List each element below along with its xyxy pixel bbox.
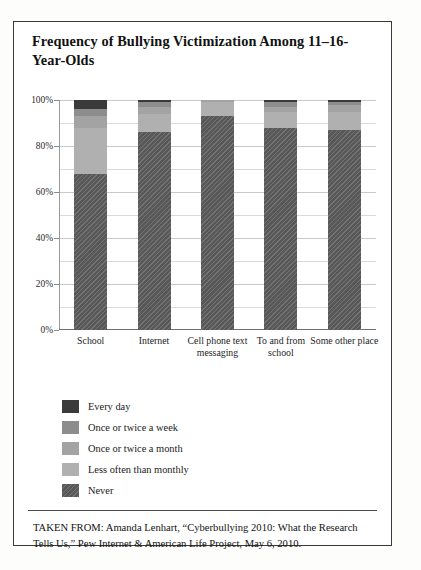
x-axis-label: To and from school: [244, 335, 317, 359]
bar-2[interactable]: Internet: [138, 100, 171, 330]
bar-3[interactable]: Cell phone text messaging: [201, 100, 234, 330]
legend-swatch: [62, 484, 79, 497]
figure-page: Frequency of Bullying Victimization Amon…: [0, 0, 421, 570]
legend-label: Once or twice a week: [88, 422, 178, 433]
legend-swatch: [62, 421, 79, 434]
y-axis-tick-label: 0%: [41, 325, 54, 335]
bar-segment: [264, 112, 297, 128]
bar-segment: [74, 116, 107, 128]
y-axis-tick-label: 100%: [31, 95, 53, 105]
bar-5[interactable]: Some other place: [328, 100, 361, 330]
bar-segment: [138, 107, 171, 114]
legend-item-4[interactable]: Less often than monthly: [62, 459, 362, 480]
bar-segment: [138, 114, 171, 132]
x-axis-label: Internet: [118, 335, 191, 347]
divider-rule: [28, 510, 377, 511]
bar-segment: [201, 102, 234, 116]
bar-segment: [201, 116, 234, 330]
bar-segment: [74, 128, 107, 174]
y-axis-tick-mark: [54, 238, 59, 239]
legend-label: Every day: [88, 401, 130, 412]
bar-segment: [328, 105, 361, 112]
chart-title: Frequency of Bullying Victimization Amon…: [32, 32, 362, 69]
bar-segment: [328, 100, 361, 102]
y-axis-tick-label: 20%: [36, 279, 53, 289]
legend-label: Once or twice a month: [88, 443, 183, 454]
bar-segment: [328, 102, 361, 104]
bar-segment: [201, 100, 234, 102]
bar-4[interactable]: To and from school: [264, 100, 297, 330]
y-axis-tick-label: 40%: [36, 233, 53, 243]
bar-segment: [264, 107, 297, 112]
bar-segment: [328, 130, 361, 330]
legend-item-1[interactable]: Every day: [62, 396, 362, 417]
x-axis-label: School: [54, 335, 127, 347]
figure-frame: Frequency of Bullying Victimization Amon…: [13, 21, 392, 546]
bar-segment: [138, 102, 171, 107]
x-axis-label: Cell phone text messaging: [181, 335, 254, 359]
legend-item-5[interactable]: Never: [62, 480, 362, 501]
bar-segment: [74, 109, 107, 116]
y-axis-tick-mark: [54, 100, 59, 101]
legend-swatch: [62, 463, 79, 476]
bar-segment: [264, 100, 297, 102]
x-axis-label: Some other place: [308, 335, 381, 347]
chart-legend: Every dayOnce or twice a weekOnce or twi…: [62, 396, 362, 501]
legend-label: Never: [88, 485, 113, 496]
legend-swatch: [62, 442, 79, 455]
legend-item-2[interactable]: Once or twice a week: [62, 417, 362, 438]
bar-1[interactable]: School: [74, 100, 107, 330]
y-axis-tick-label: 60%: [36, 187, 53, 197]
bar-segment: [74, 174, 107, 330]
bar-segment: [74, 100, 107, 109]
legend-label: Less often than monthly: [88, 464, 189, 475]
bar-segment: [328, 112, 361, 130]
y-axis-tick-mark: [54, 146, 59, 147]
legend-item-3[interactable]: Once or twice a month: [62, 438, 362, 459]
bar-segment: [138, 132, 171, 330]
bar-group: SchoolInternetCell phone text messagingT…: [59, 100, 376, 330]
source-citation: TAKEN FROM: Amanda Lenhart, “Cyberbullyi…: [33, 520, 378, 551]
y-axis-tick-mark: [54, 330, 59, 331]
bar-segment: [264, 128, 297, 330]
bar-segment: [138, 100, 171, 102]
legend-swatch: [62, 400, 79, 413]
bar-segment: [264, 102, 297, 107]
y-axis-tick-mark: [54, 192, 59, 193]
y-axis-tick-mark: [54, 284, 59, 285]
y-axis-tick-label: 80%: [36, 141, 53, 151]
plot-area: SchoolInternetCell phone text messagingT…: [59, 100, 376, 330]
